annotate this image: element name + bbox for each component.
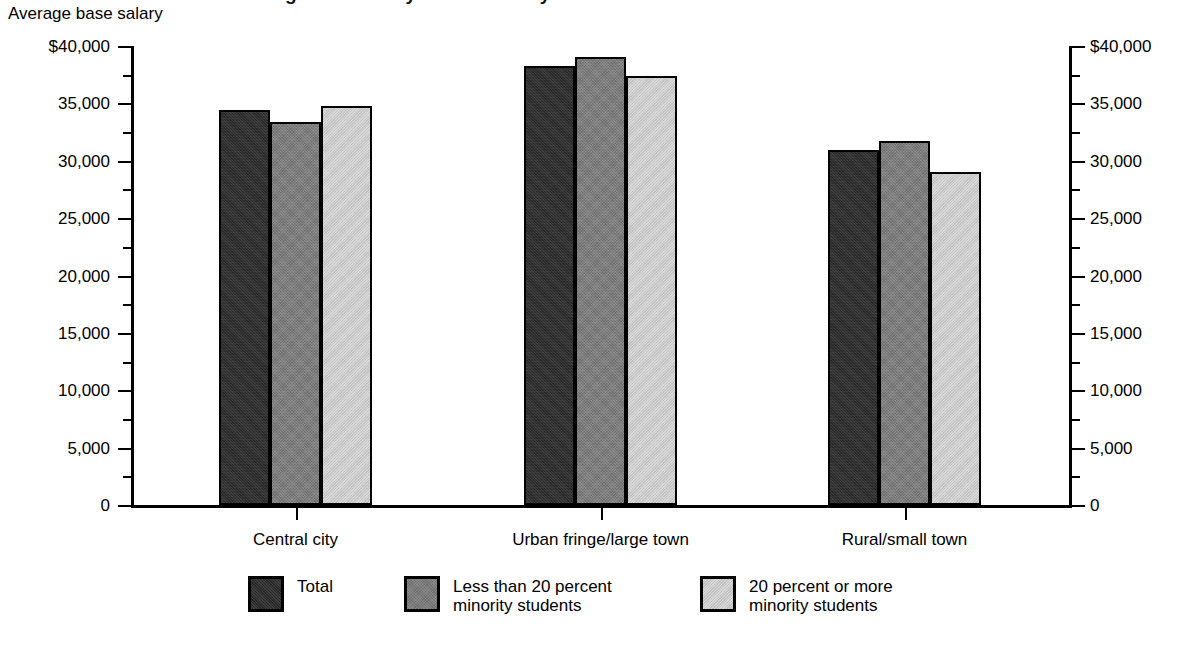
y-axis-right-tick-label: $40,000 (1090, 38, 1151, 55)
y-axis-left-tick-label: 30,000 (0, 153, 110, 170)
legend-label-2: 20 percent or more minority students (749, 576, 893, 615)
y-axis-left-tick-label: 20,000 (0, 268, 110, 285)
bar-central-city-series-2 (321, 106, 372, 505)
y-axis-left-minor-tick (123, 75, 131, 77)
y-axis-right-tick-label: 30,000 (1090, 153, 1142, 170)
y-axis-right-major-tick (1072, 161, 1085, 163)
y-axis-right-minor-tick (1072, 132, 1080, 134)
legend-item-0[interactable]: Total (248, 576, 333, 612)
y-axis-right-minor-tick (1072, 247, 1080, 249)
y-axis-right-tick-label: 5,000 (1090, 440, 1133, 457)
x-axis-category-label: Urban fringe/large town (431, 530, 771, 550)
y-axis-left-tick-label: 35,000 (0, 95, 110, 112)
y-axis-left-tick-label: 5,000 (0, 440, 110, 457)
y-axis-left-major-tick (118, 276, 131, 278)
chart-legend: TotalLess than 20 percent minority stude… (0, 576, 1197, 640)
y-axis-right-tick-label: 20,000 (1090, 268, 1142, 285)
y-axis-left-tick-label: 10,000 (0, 382, 110, 399)
y-axis-right-major-tick (1072, 505, 1085, 507)
y-axis-left-minor-tick (123, 132, 131, 134)
y-axis-right-minor-tick (1072, 362, 1080, 364)
bar-urban-fringe-large-town-series-0 (524, 66, 575, 505)
y-axis-right-major-tick (1072, 276, 1085, 278)
legend-swatch-1 (404, 576, 440, 612)
y-axis-right-major-tick (1072, 448, 1085, 450)
bar-urban-fringe-large-town-series-2 (626, 76, 677, 505)
y-axis-left-major-tick (118, 218, 131, 220)
bar-central-city-series-1 (270, 122, 321, 505)
y-axis-left-major-tick (118, 333, 131, 335)
bar-rural-small-town-series-0 (828, 150, 879, 505)
legend-swatch-2 (700, 576, 736, 612)
x-axis-category-label: Rural/small town (735, 530, 1075, 550)
y-axis-left-minor-tick (123, 362, 131, 364)
y-axis-left-minor-tick (123, 247, 131, 249)
x-axis-group-tick (601, 508, 603, 520)
bar-rural-small-town-series-1 (879, 141, 930, 505)
y-axis-left-major-tick (118, 103, 131, 105)
y-axis-right-major-tick (1072, 46, 1085, 48)
y-axis-left-minor-tick (123, 189, 131, 191)
y-axis-right-tick-label: 15,000 (1090, 325, 1142, 342)
y-axis-left-major-tick (118, 390, 131, 392)
y-axis-right-minor-tick (1072, 476, 1080, 478)
y-axis-left-line (131, 46, 134, 508)
y-axis-right-tick-label: 25,000 (1090, 210, 1142, 227)
y-axis-right-tick-label: 0 (1090, 497, 1099, 514)
y-axis-left-major-tick (118, 448, 131, 450)
y-axis-left-minor-tick (123, 419, 131, 421)
y-axis-left-major-tick (118, 161, 131, 163)
y-axis-left-major-tick (118, 505, 131, 507)
y-axis-right-major-tick (1072, 218, 1085, 220)
bar-rural-small-town-series-2 (930, 172, 981, 505)
y-axis-right-major-tick (1072, 103, 1085, 105)
x-axis-group-tick (905, 508, 907, 520)
y-axis-left-tick-label: 0 (0, 497, 110, 514)
legend-label-1: Less than 20 percent minority students (453, 576, 612, 615)
y-axis-right-major-tick (1072, 333, 1085, 335)
legend-item-2[interactable]: 20 percent or more minority students (700, 576, 893, 615)
y-axis-right-minor-tick (1072, 75, 1080, 77)
y-axis-left-minor-tick (123, 304, 131, 306)
y-axis-left-major-tick (118, 46, 131, 48)
y-axis-right-minor-tick (1072, 189, 1080, 191)
y-axis-left-minor-tick (123, 476, 131, 478)
y-axis-right-minor-tick (1072, 304, 1080, 306)
y-axis-left-tick-label: 15,000 (0, 325, 110, 342)
y-axis-right-minor-tick (1072, 419, 1080, 421)
y-axis-right-tick-label: 10,000 (1090, 382, 1142, 399)
x-axis-group-tick (296, 508, 298, 520)
legend-label-0: Total (297, 576, 333, 596)
bar-chart-plot-area: $40,000$40,00035,00035,00030,00030,00025… (0, 0, 1197, 656)
y-axis-left-tick-label: 25,000 (0, 210, 110, 227)
bar-urban-fringe-large-town-series-1 (575, 57, 626, 505)
legend-item-1[interactable]: Less than 20 percent minority students (404, 576, 612, 615)
y-axis-right-major-tick (1072, 390, 1085, 392)
y-axis-left-tick-label: $40,000 (0, 38, 110, 55)
y-axis-right-tick-label: 35,000 (1090, 95, 1142, 112)
bar-central-city-series-0 (219, 110, 270, 505)
x-axis-category-label: Central city (126, 530, 466, 550)
legend-swatch-0 (248, 576, 284, 612)
